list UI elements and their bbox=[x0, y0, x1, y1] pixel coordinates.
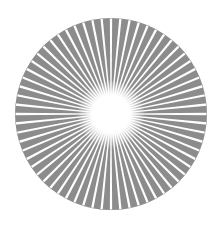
starburst-canvas bbox=[0, 0, 224, 233]
starburst-icon bbox=[0, 0, 224, 233]
center-glow bbox=[77, 80, 145, 148]
